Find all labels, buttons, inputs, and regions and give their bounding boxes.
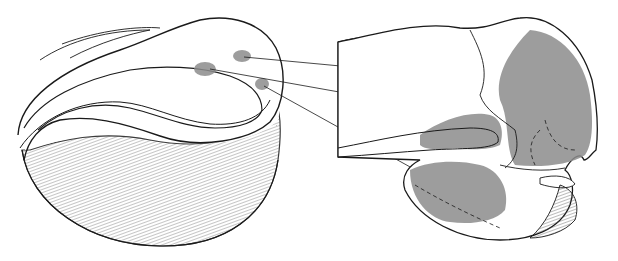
embryo-figure [0, 0, 618, 261]
spot-upper-right [233, 50, 251, 62]
right-section [338, 18, 597, 240]
spot-lower-right [255, 78, 269, 90]
embryo-diagram [0, 0, 618, 261]
spot-middle [194, 62, 216, 76]
left-embryo [18, 18, 283, 246]
